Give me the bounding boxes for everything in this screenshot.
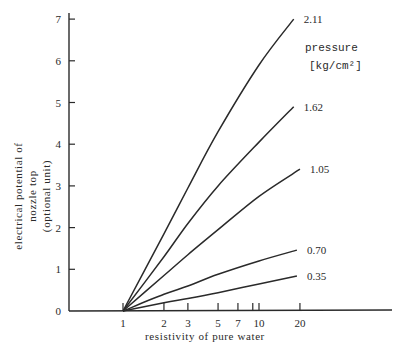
x-axis-line (69, 310, 392, 311)
x-tick-label: 10 (254, 317, 266, 329)
legend-unit: [kg/cm²] (309, 60, 362, 72)
x-tick-label: 5 (215, 317, 221, 329)
series-label: 1.05 (310, 163, 330, 175)
legend-title: pressure (305, 42, 358, 54)
y-tick-label: 1 (56, 263, 62, 275)
y-axis-title-line: (optional unit) (40, 160, 53, 232)
x-tick-label: 3 (185, 317, 191, 329)
legend: pressure [kg/cm²] (305, 42, 362, 72)
y-tick-label: 6 (56, 55, 62, 67)
y-tick-label: 4 (56, 138, 62, 150)
y-tick-label: 3 (56, 180, 62, 192)
x-axis: 123571020 (69, 303, 392, 329)
series-label: 1.62 (304, 101, 323, 113)
series-curve-1.62 (123, 107, 294, 311)
x-tick-label: 2 (161, 317, 167, 329)
series-curves (123, 19, 300, 311)
series-curve-0.35 (123, 276, 297, 311)
series-curve-1.05 (123, 169, 300, 311)
x-tick-label: 20 (294, 317, 306, 329)
y-tick-label: 0 (56, 305, 62, 317)
series-label: 0.70 (307, 244, 327, 256)
y-tick-label: 5 (56, 97, 62, 109)
y-axis: 01234567 (56, 13, 76, 317)
chart: 01234567 123571020 2.111.621.050.700.35 … (0, 0, 404, 354)
y-axis-title-line: nozzle top (26, 170, 38, 222)
y-tick-label: 2 (56, 222, 62, 234)
x-tick-label: 7 (235, 317, 241, 329)
series-curve-0.70 (123, 250, 297, 311)
y-axis-title-line: electrical potential of (12, 142, 24, 249)
y-tick-label: 7 (56, 13, 62, 25)
series-label: 0.35 (307, 270, 327, 282)
y-axis-title: electrical potential ofnozzle top(option… (12, 142, 53, 249)
x-tick-label: 1 (120, 317, 126, 329)
x-axis-title: resistivity of pure water (145, 330, 265, 342)
series-label: 2.11 (304, 13, 323, 25)
series-curve-2.11 (123, 19, 294, 311)
